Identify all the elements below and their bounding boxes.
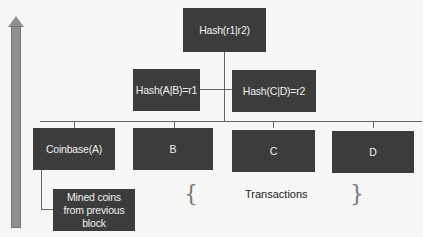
- connector-root-vertical: [224, 52, 225, 122]
- leaf-coinbase-node: Coinbase(A): [33, 128, 115, 170]
- connector-leaf-d: [373, 121, 374, 128]
- connector-r1-r2: [200, 89, 232, 90]
- hash-ab-node: Hash(A|B)=r1: [133, 69, 200, 111]
- connector-leaf-a: [74, 121, 75, 128]
- leaf-b-label: B: [170, 143, 177, 156]
- connector-leaves-horizontal: [40, 121, 422, 122]
- connector-leaf-b: [174, 121, 175, 128]
- leaf-d-node: D: [332, 131, 414, 173]
- leaf-coinbase-label: Coinbase(A): [46, 143, 102, 156]
- arrow-shaft: [11, 26, 21, 228]
- root-hash-node: Hash(r1|r2): [183, 8, 266, 52]
- leaf-b-node: B: [133, 128, 213, 170]
- leaf-c-label: C: [270, 145, 277, 158]
- root-hash-label: Hash(r1|r2): [199, 24, 250, 37]
- mined-coins-node: Mined coins from previous block: [53, 189, 135, 231]
- connector-mined-vertical: [41, 170, 42, 209]
- connector-leaf-c: [273, 121, 274, 128]
- brace-right: }: [350, 183, 364, 205]
- hash-cd-node: Hash(C|D)=r2: [232, 70, 316, 112]
- mined-coins-label: Mined coins from previous block: [59, 191, 129, 230]
- brace-left: {: [184, 183, 198, 205]
- hash-cd-label: Hash(C|D)=r2: [243, 85, 305, 98]
- transactions-label: Transactions: [245, 188, 308, 200]
- leaf-c-node: C: [232, 130, 315, 172]
- hash-ab-label: Hash(A|B)=r1: [136, 84, 197, 97]
- connector-mined-horizontal: [41, 209, 53, 210]
- leaf-d-label: D: [369, 146, 376, 159]
